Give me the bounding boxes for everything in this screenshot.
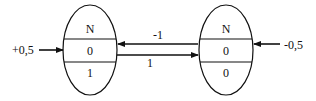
right-node-cell-state: 0 (223, 44, 229, 58)
left-node-cell-state: 0 (87, 44, 93, 58)
right-node: N 0 0 (199, 5, 253, 95)
edge-left-to-right-weight: 1 (147, 56, 153, 70)
left-node-cell-label: N (86, 22, 95, 36)
left-node: N 0 1 (63, 5, 117, 95)
right-node-cell-label: N (222, 22, 231, 36)
left-node-cell-output: 1 (87, 66, 93, 80)
right-input-label: -0,5 (284, 38, 303, 52)
right-node-cell-output: 0 (223, 66, 229, 80)
network-diagram: N 0 1 N 0 0 +0,5 -0,5 -1 1 (0, 0, 316, 101)
left-input-label: +0,5 (12, 43, 34, 57)
edge-right-to-left-weight: -1 (153, 28, 163, 42)
